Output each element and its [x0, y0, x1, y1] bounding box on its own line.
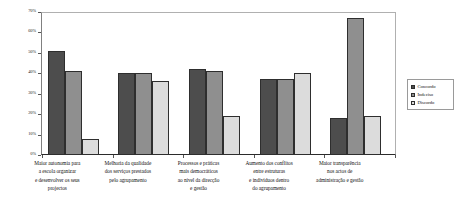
y-axis-tick-label: 20% [28, 110, 36, 115]
y-axis-tick-label: 10% [28, 131, 36, 136]
x-axis-category-label-line: Aumento dos conflitos [234, 159, 305, 167]
x-axis-tick-mark [183, 155, 184, 158]
x-axis-category-label-line: projectos [22, 184, 93, 192]
x-axis-category-label-line: ao nível da direcção [163, 176, 234, 184]
bar [364, 116, 381, 155]
y-axis-tick-label: 60% [28, 28, 36, 33]
x-axis-category-label-line: entre estruturas [234, 167, 305, 175]
legend-label: Indeciso [418, 92, 434, 97]
bar-group [189, 12, 240, 155]
y-axis-tick-mark [38, 114, 41, 115]
x-axis-category-label: Aumento dos conflitosentre estruturase i… [234, 159, 305, 193]
bar [206, 71, 223, 155]
x-axis-category-label-line: administração e gestão [304, 176, 375, 184]
x-axis-category-label: Maior autonomia paraa escola organizare … [22, 159, 93, 193]
x-axis-category-label-line: Melhoria da qualidade [93, 159, 164, 167]
bar [118, 73, 135, 155]
x-axis-category-label-line: nos actos de [304, 167, 375, 175]
y-axis: 70%60%50%40%30%20%10%0% [0, 12, 41, 156]
bar-chart: 70%60%50%40%30%20%10%0% Maior autonomia … [0, 0, 468, 212]
x-axis-category-label-line: e gestão [163, 184, 234, 192]
bars-layer [42, 12, 395, 155]
legend-label: Concordo [418, 84, 436, 89]
x-axis-category-label-line: Maior autonomia para [22, 159, 93, 167]
y-axis-tick-mark [38, 135, 41, 136]
x-axis-category-label: Melhoria da qualidadedos serviços presta… [93, 159, 164, 184]
bar [223, 116, 240, 155]
x-axis-category-label-line: mais democráticos [163, 167, 234, 175]
chart-legend: ConcordoIndecisoDiscordo [407, 79, 454, 110]
x-axis-category-label-line: e indivíduos dentro [234, 176, 305, 184]
bar [135, 73, 152, 155]
y-axis-tick-mark [38, 155, 41, 156]
legend-swatch-icon [411, 85, 415, 89]
x-axis-tick-mark [254, 155, 255, 158]
legend-item[interactable]: Indeciso [411, 91, 451, 98]
bar [277, 79, 294, 155]
bar-group [330, 12, 381, 155]
bar [82, 139, 99, 155]
x-axis-category-label-line: dos serviços prestados [93, 167, 164, 175]
y-axis-tick-label: 40% [28, 69, 36, 74]
bar-group [48, 12, 99, 155]
x-axis-category-label-line: pelo agrupamento [93, 176, 164, 184]
bar [330, 118, 347, 155]
bar-group [118, 12, 169, 155]
bar-group [260, 12, 311, 155]
legend-swatch-icon [411, 93, 415, 97]
x-axis-category-label: Maior transparêncianos actos deadministr… [304, 159, 375, 184]
x-axis-tick-mark [324, 155, 325, 158]
bar [65, 71, 82, 155]
bar [152, 81, 169, 155]
y-axis-tick-label: 50% [28, 49, 36, 54]
x-axis-category-label-line: do agrupamento [234, 184, 305, 192]
x-axis-category-label-line: Maior transparência [304, 159, 375, 167]
x-axis-category-label-line: e desenvolver os seus [22, 176, 93, 184]
y-axis-tick-label: 70% [28, 8, 36, 13]
bar [294, 73, 311, 155]
x-axis-category-label: Processos e práticasmais democráticosao … [163, 159, 234, 193]
x-axis-tick-mark [113, 155, 114, 158]
legend-item[interactable]: Discordo [411, 99, 451, 106]
x-axis-category-labels: Maior autonomia paraa escola organizare … [22, 159, 422, 209]
x-axis-category-label-line: Processos e práticas [163, 159, 234, 167]
x-axis-tick-mark [395, 155, 396, 158]
y-axis-tick-label: 30% [28, 90, 36, 95]
legend-label: Discordo [418, 100, 435, 105]
bar [48, 51, 65, 155]
x-axis-tick-mark [42, 155, 43, 158]
bar [260, 79, 277, 155]
y-axis-tick-mark [38, 32, 41, 33]
bar [347, 18, 364, 155]
y-axis-tick-mark [38, 12, 41, 13]
x-axis-category-label-line: a escola organizar [22, 167, 93, 175]
legend-swatch-icon [411, 101, 415, 105]
y-axis-tick-mark [38, 73, 41, 74]
legend-item[interactable]: Concordo [411, 83, 451, 90]
y-axis-tick-mark [38, 94, 41, 95]
y-axis-tick-label: 0% [30, 151, 36, 156]
bar [189, 69, 206, 155]
y-axis-tick-mark [38, 53, 41, 54]
